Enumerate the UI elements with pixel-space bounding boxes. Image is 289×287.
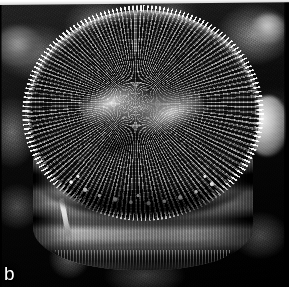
panel-label: b [4,264,15,283]
lower-rim-spine-fringe [55,250,231,270]
diatom-frustule [27,12,259,270]
sem-micrograph-figure: b [0,0,289,287]
right-page-margin [284,0,289,287]
left-page-margin [0,0,2,287]
